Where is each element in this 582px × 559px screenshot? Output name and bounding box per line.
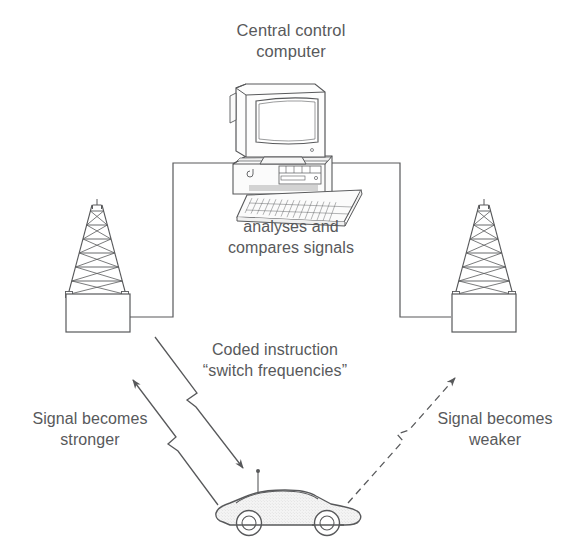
crt-monitor-icon [230, 84, 325, 164]
label-central-control-computer: Central control computer [0, 20, 582, 62]
diagram-canvas: Central control computer analyses and co… [0, 0, 582, 559]
floppy-drive-icon [279, 166, 321, 184]
car-illustration [216, 469, 361, 536]
central-control-computer-illustration [230, 84, 362, 226]
car-rear-wheel [237, 511, 262, 536]
label-coded-instruction: Coded instruction “switch frequencies” [160, 339, 390, 381]
right-mast-base-building [452, 294, 516, 332]
label-analyses-compares-signals: analyses and compares signals [0, 216, 582, 258]
label-signal-becomes-stronger: Signal becomes stronger [0, 408, 180, 450]
diagram-graphics [0, 0, 582, 559]
label-signal-becomes-weaker: Signal becomes weaker [408, 408, 582, 450]
left-mast-base-building [66, 294, 130, 332]
car-front-wheel [315, 511, 340, 536]
